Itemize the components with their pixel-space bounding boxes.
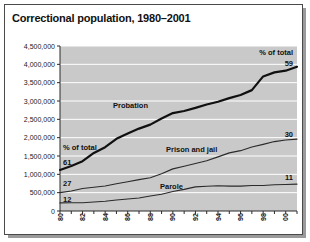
annotation-left-pct-label: % of total — [63, 143, 97, 152]
x-axis-tick-label: 86 — [124, 213, 131, 221]
x-axis-tick-label: 00 — [282, 213, 289, 221]
y-axis-tick-label: 500,000 — [30, 189, 55, 196]
annotation-left-pct-parole: 12 — [63, 195, 71, 204]
x-axis-tick-label: 82 — [79, 213, 86, 221]
y-axis-tick-label: 4,000,000 — [24, 61, 55, 68]
y-axis-tick-label: 2,000,000 — [24, 134, 55, 141]
series-label-probation: Probation — [113, 101, 148, 110]
y-axis-tick-label: 0 — [51, 208, 55, 215]
annotation-right-pct-parole: 11 — [285, 173, 293, 182]
x-axis-tick-label: 84 — [102, 213, 109, 221]
x-axis-tick-label: 92 — [192, 213, 199, 221]
series-label-prison-and-jail: Prison and jail — [166, 145, 217, 154]
x-axis-tick-labels: 8082848688909294969800 — [57, 213, 290, 221]
annotation-top-right-pct-value: 59 — [285, 59, 293, 68]
y-axis-tick-label: 3,500,000 — [24, 79, 55, 86]
y-axis-tick-label: 2,500,000 — [24, 116, 55, 123]
x-axis-tick-label: 80 — [57, 213, 64, 221]
y-axis-tick-label: 1,000,000 — [24, 171, 55, 178]
annotation-right-pct-prison: 30 — [285, 130, 293, 139]
x-axis-tick-label: 98 — [260, 213, 267, 221]
series-label-parole: Parole — [160, 182, 183, 191]
plot-area-wrapper: 0500,0001,000,0001,500,0002,000,0002,500… — [0, 0, 310, 242]
y-axis-tick-label: 3,000,000 — [24, 98, 55, 105]
chart-figure: Correctional population, 1980–2001 0500,… — [0, 0, 310, 242]
annotation-top-right-pct-label: % of total — [259, 48, 293, 57]
y-axis-tick-label: 4,500,000 — [24, 43, 55, 50]
annotation-left-pct-prison: 27 — [63, 179, 71, 188]
x-axis-tick-label: 96 — [237, 213, 244, 221]
x-axis-tick-label: 94 — [215, 213, 222, 221]
line-chart-svg: 0500,0001,000,0001,500,0002,000,0002,500… — [0, 0, 310, 242]
x-axis-tick-label: 88 — [147, 213, 154, 221]
x-axis-tick-label: 90 — [169, 213, 176, 221]
y-axis-tick-label: 1,500,000 — [24, 153, 55, 160]
annotation-left-pct-probation: 61 — [63, 158, 71, 167]
y-axis-tick-labels: 0500,0001,000,0001,500,0002,000,0002,500… — [24, 43, 55, 215]
